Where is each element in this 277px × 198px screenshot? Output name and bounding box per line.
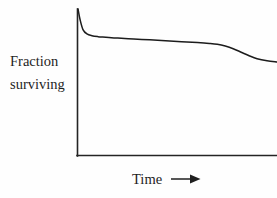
survival-curve-line: [78, 9, 277, 62]
x-axis-label: Time: [132, 172, 162, 187]
arrow-right-icon: [171, 172, 201, 186]
y-axis-label: Fraction surviving: [10, 54, 65, 91]
y-axis-label-line-1: Fraction: [10, 54, 65, 69]
survival-curve-figure: Fraction surviving Time: [0, 0, 277, 198]
x-axis-label-group: Time: [132, 172, 201, 187]
y-axis-label-line-2: surviving: [10, 77, 65, 92]
plot-area: [0, 0, 277, 198]
